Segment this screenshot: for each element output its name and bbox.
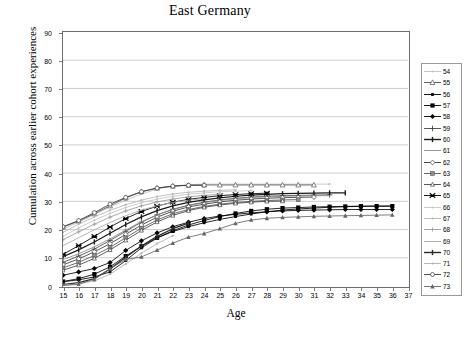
x-tick-mark (79, 288, 80, 291)
data-point-marker (140, 252, 142, 254)
plot-area (62, 31, 410, 288)
x-tick-mark (299, 288, 300, 291)
data-point-marker (431, 273, 435, 277)
data-point-marker (188, 220, 189, 225)
legend-label: 59 (442, 123, 450, 134)
data-point-marker (63, 273, 66, 278)
data-point-marker (430, 194, 436, 198)
legend-item-60[interactable]: 60 (422, 134, 461, 145)
data-point-marker (92, 222, 96, 226)
data-point-marker (77, 230, 81, 234)
chart-page: East Germany Cumulation across earlier c… (0, 0, 468, 339)
data-point-marker (124, 195, 128, 199)
data-point-marker (156, 234, 157, 239)
data-point-marker (219, 189, 221, 191)
data-point-marker (156, 243, 158, 245)
data-point-marker (108, 215, 112, 219)
data-point-marker (203, 190, 205, 192)
data-point-marker (431, 93, 434, 96)
data-point-marker (92, 211, 96, 215)
data-point-marker (234, 189, 236, 191)
legend-item-61[interactable]: 61 (422, 145, 461, 156)
x-tick-mark (220, 288, 221, 291)
legend-swatch-icon (423, 224, 442, 235)
legend-swatch-icon (423, 168, 442, 179)
y-tick-label: 70 (32, 85, 52, 92)
plot-inner (63, 32, 409, 287)
legend-swatch-icon (423, 145, 442, 156)
x-tick-mark (189, 288, 190, 291)
data-point-marker (432, 250, 433, 255)
legend-item-58[interactable]: 58 (422, 111, 461, 122)
legend-swatch-icon (423, 100, 442, 111)
legend-label: 62 (442, 157, 450, 168)
data-point-marker (430, 125, 436, 131)
x-tick-mark (283, 288, 284, 291)
legend-item-54[interactable]: 54 (422, 66, 461, 77)
data-point-marker (250, 190, 252, 192)
x-tick-mark (158, 288, 159, 291)
legend-item-63[interactable]: 63 (422, 168, 461, 179)
legend-item-68[interactable]: 68 (422, 224, 461, 235)
y-tick-label: 20 (32, 227, 52, 234)
legend-swatch-icon (423, 190, 442, 201)
legend-item-55[interactable]: 55 (422, 77, 461, 88)
series-line (63, 184, 330, 229)
legend-item-59[interactable]: 59 (422, 122, 461, 133)
data-point-marker (430, 160, 435, 165)
legend-swatch-icon (423, 179, 442, 190)
legend-label: 63 (442, 168, 450, 179)
legend-item-69[interactable]: 69 (422, 235, 461, 246)
data-point-marker (125, 222, 126, 227)
data-point-marker (172, 203, 173, 208)
data-point-marker (92, 266, 97, 271)
y-tick-label: 80 (32, 57, 52, 64)
x-tick-mark (314, 288, 315, 291)
legend-swatch-icon (423, 213, 442, 224)
chart-legend[interactable]: 5455565758596061626364656667686970717273 (421, 63, 462, 296)
legend-swatch-icon (423, 202, 442, 213)
series-line (63, 195, 330, 262)
legend-item-62[interactable]: 62 (422, 156, 461, 167)
x-tick-mark (252, 288, 253, 291)
data-point-marker (124, 209, 128, 213)
legend-label: 73 (442, 281, 450, 292)
legend-item-65[interactable]: 65 (422, 190, 461, 201)
y-tick-label: 50 (32, 142, 52, 149)
data-point-marker (186, 183, 190, 187)
legend-swatch-icon (423, 134, 442, 145)
x-tick-mark (377, 288, 378, 291)
chart-canvas (63, 32, 408, 286)
legend-item-57[interactable]: 57 (422, 100, 461, 111)
data-point-marker (109, 209, 111, 211)
data-point-marker (139, 190, 143, 194)
legend-item-67[interactable]: 67 (422, 213, 461, 224)
legend-item-72[interactable]: 72 (422, 269, 461, 280)
data-point-marker (92, 234, 98, 238)
data-point-marker (94, 239, 95, 244)
data-point-marker (172, 226, 173, 231)
legend-label: 67 (442, 213, 450, 224)
legend-item-64[interactable]: 64 (422, 179, 461, 190)
legend-item-70[interactable]: 70 (422, 247, 461, 258)
data-point-marker (109, 273, 111, 275)
legend-item-56[interactable]: 56 (422, 89, 461, 100)
data-point-marker (125, 206, 127, 208)
data-point-marker (109, 231, 110, 236)
x-tick-mark (267, 288, 268, 291)
legend-swatch-icon (423, 111, 442, 122)
x-tick-label: 37 (399, 292, 419, 299)
data-point-marker (78, 223, 80, 225)
legend-label: 71 (442, 258, 450, 269)
legend-label: 68 (442, 224, 450, 235)
legend-swatch-icon (423, 269, 442, 280)
legend-item-71[interactable]: 71 (422, 258, 461, 269)
y-tick-label: 0 (32, 283, 52, 290)
y-tick-label: 90 (32, 29, 52, 36)
data-point-marker (156, 195, 158, 197)
data-point-marker (431, 171, 435, 175)
legend-item-66[interactable]: 66 (422, 202, 461, 213)
legend-item-73[interactable]: 73 (422, 281, 461, 292)
data-point-marker (155, 200, 159, 204)
data-point-marker (431, 217, 433, 219)
